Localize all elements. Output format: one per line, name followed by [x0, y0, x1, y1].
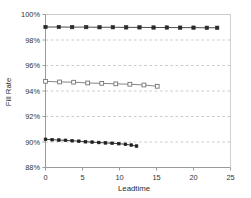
data-point — [86, 81, 90, 85]
y-tick-label: 90% — [25, 138, 40, 147]
data-point — [51, 138, 54, 141]
fill-rate-chart: 88%90%92%94%96%98%100% 0510152025 Leadti… — [0, 0, 251, 198]
data-point — [152, 26, 155, 29]
x-tick-label: 20 — [189, 173, 197, 182]
series-series-top — [44, 25, 219, 29]
data-point — [44, 138, 47, 141]
data-point — [114, 82, 118, 86]
data-point — [124, 26, 127, 29]
data-series-group — [44, 25, 219, 147]
data-point — [72, 80, 76, 84]
data-point — [128, 82, 132, 86]
data-point — [104, 142, 107, 145]
y-tick-label: 88% — [25, 163, 40, 172]
data-point — [142, 83, 146, 87]
data-point — [84, 140, 87, 143]
x-tick-label: 10 — [115, 173, 123, 182]
chart-canvas: 88%90%92%94%96%98%100% 0510152025 Leadti… — [0, 0, 251, 198]
x-tick-label: 0 — [43, 173, 47, 182]
series-series-middle — [44, 79, 160, 88]
y-tick-label: 96% — [25, 61, 40, 70]
y-axis-ticks: 88%90%92%94%96%98%100% — [21, 10, 45, 172]
data-point — [91, 141, 94, 144]
data-point — [44, 79, 48, 83]
data-point — [135, 145, 138, 148]
data-point — [98, 26, 101, 29]
x-tick-label: 5 — [80, 173, 84, 182]
data-point — [111, 142, 114, 145]
y-tick-label: 100% — [21, 10, 40, 19]
data-point — [124, 143, 127, 146]
x-tick-label: 25 — [226, 173, 234, 182]
y-tick-label: 94% — [25, 87, 40, 96]
data-point — [44, 25, 47, 28]
data-point — [155, 84, 159, 88]
data-point — [192, 26, 195, 29]
y-tick-label: 98% — [25, 36, 40, 45]
x-axis-ticks: 0510152025 — [43, 168, 234, 182]
data-point — [71, 139, 74, 142]
data-point — [111, 26, 114, 29]
data-point — [165, 26, 168, 29]
x-tick-label: 15 — [152, 173, 160, 182]
data-point — [77, 140, 80, 143]
data-point — [85, 25, 88, 28]
data-point — [70, 25, 73, 28]
data-point — [215, 26, 218, 29]
data-point — [97, 141, 100, 144]
y-tick-label: 92% — [25, 112, 40, 121]
grid-lines — [46, 15, 231, 143]
y-axis-title: Fill Rate — [4, 78, 13, 107]
data-point — [138, 26, 141, 29]
data-point — [58, 80, 62, 84]
data-point — [117, 142, 120, 145]
series-series-bottom — [44, 138, 138, 147]
data-point — [178, 26, 181, 29]
data-point — [64, 139, 67, 142]
data-point — [100, 81, 104, 85]
data-point — [57, 25, 60, 28]
data-point — [57, 139, 60, 142]
x-axis-title: Leadtime — [118, 184, 150, 193]
data-point — [205, 26, 208, 29]
data-point — [130, 144, 133, 147]
